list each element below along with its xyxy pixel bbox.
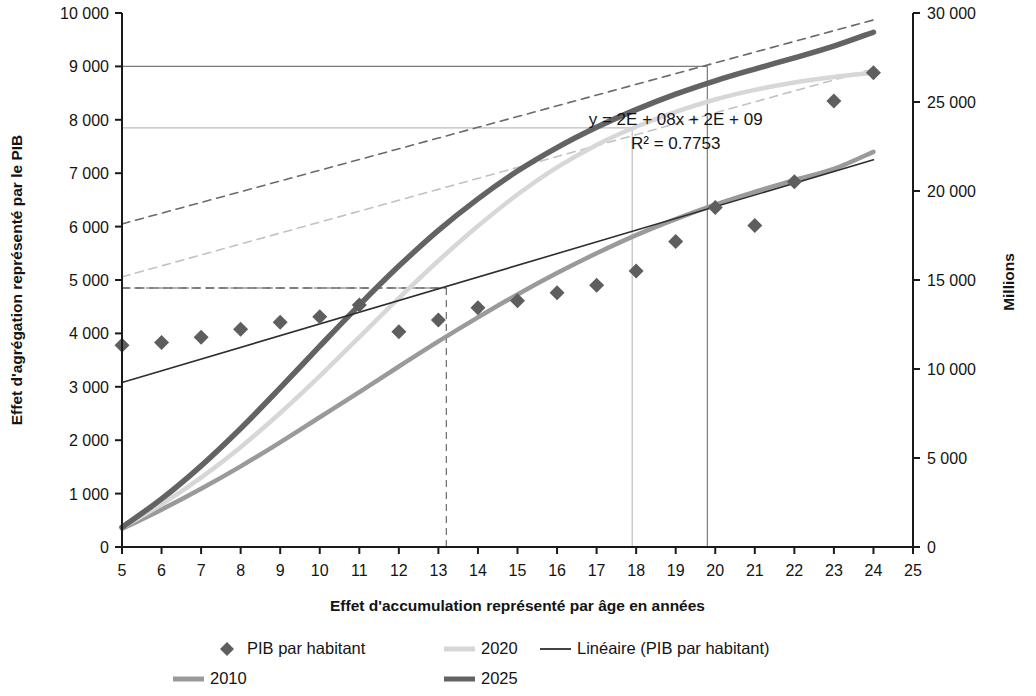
x-tick-label: 24 <box>865 562 883 579</box>
legend-marker-diamond <box>220 642 234 656</box>
annotation-r-squared: R² = 0.7753 <box>631 134 720 153</box>
x-tick-label: 10 <box>311 562 329 579</box>
data-point-diamond <box>233 322 248 337</box>
y-tick-label: 7 000 <box>69 165 109 182</box>
x-tick-label: 21 <box>746 562 764 579</box>
legend-label: Linéaire (PIB par habitant) <box>577 639 770 657</box>
x-tick-label: 13 <box>430 562 448 579</box>
annotation-equation: y = 2E + 08x + 2E + 09 <box>589 110 763 129</box>
y2-tick-label: 25 000 <box>927 94 976 111</box>
data-point-diamond <box>826 94 841 109</box>
chart-svg: 01 0002 0003 0004 0005 0006 0007 0008 00… <box>0 0 1036 696</box>
x-tick-label: 25 <box>904 562 922 579</box>
y-axis-title: Effet d'agrégation représenté par le PIB <box>8 135 25 426</box>
x-tick-label: 22 <box>785 562 803 579</box>
x-tick-label: 15 <box>509 562 527 579</box>
y-tick-label: 3 000 <box>69 379 109 396</box>
y-tick-label: 9 000 <box>69 58 109 75</box>
x-tick-label: 17 <box>588 562 606 579</box>
y2-tick-label: 30 000 <box>927 5 976 22</box>
y-tick-label: 0 <box>100 539 109 556</box>
y-tick-label: 6 000 <box>69 219 109 236</box>
x-axis-title: Effet d'accumulation représenté par âge … <box>330 597 705 614</box>
x-tick-label: 6 <box>157 562 166 579</box>
y2-tick-label: 10 000 <box>927 361 976 378</box>
x-tick-label: 12 <box>390 562 408 579</box>
x-tick-label: 8 <box>236 562 245 579</box>
x-tick-label: 19 <box>667 562 685 579</box>
x-tick-label: 5 <box>118 562 127 579</box>
data-point-diamond <box>273 315 288 330</box>
x-tick-label: 11 <box>351 562 368 579</box>
y2-tick-label: 0 <box>927 539 936 556</box>
data-point-diamond <box>747 218 762 233</box>
data-point-diamond <box>431 313 446 328</box>
data-point-diamond <box>629 263 644 278</box>
y-tick-label: 5 000 <box>69 272 109 289</box>
y2-tick-label: 15 000 <box>927 272 976 289</box>
y-tick-label: 8 000 <box>69 112 109 129</box>
y-tick-label: 4 000 <box>69 325 109 342</box>
y2-tick-label: 5 000 <box>927 450 967 467</box>
data-point-diamond <box>866 65 881 80</box>
data-point-diamond <box>550 285 565 300</box>
legend-label: 2025 <box>481 669 518 687</box>
y-tick-label: 10 000 <box>60 5 109 22</box>
dashed-lower <box>122 69 873 277</box>
series-2020 <box>122 73 873 528</box>
x-tick-label: 9 <box>276 562 285 579</box>
data-point-diamond <box>668 234 683 249</box>
data-point-diamond <box>154 335 169 350</box>
x-tick-label: 18 <box>627 562 645 579</box>
x-tick-label: 7 <box>197 562 206 579</box>
legend-label: 2010 <box>210 669 247 687</box>
x-tick-label: 20 <box>706 562 724 579</box>
data-point-diamond <box>589 278 604 293</box>
x-tick-label: 23 <box>825 562 843 579</box>
legend-label: 2020 <box>481 639 518 657</box>
data-point-diamond <box>194 330 209 345</box>
y-tick-label: 2 000 <box>69 432 109 449</box>
chart-container: 01 0002 0003 0004 0005 0006 0007 0008 00… <box>0 0 1036 696</box>
legend-label: PIB par habitant <box>247 639 366 657</box>
x-tick-label: 16 <box>548 562 566 579</box>
x-tick-label: 14 <box>469 562 487 579</box>
data-point-diamond <box>391 324 406 339</box>
y-tick-label: 1 000 <box>69 486 109 503</box>
y2-axis-title: Millions <box>1000 253 1017 311</box>
y2-tick-label: 20 000 <box>927 183 976 200</box>
